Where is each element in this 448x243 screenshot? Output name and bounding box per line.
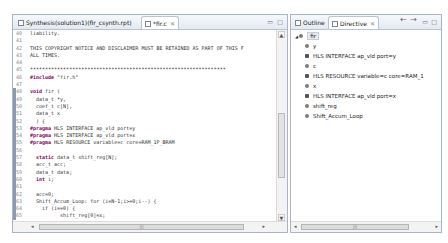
- tree-item-label: y: [313, 43, 316, 49]
- directive-tab-icon: [332, 21, 338, 27]
- report-file-icon: [18, 20, 24, 26]
- code-text: int i;: [30, 176, 54, 182]
- code-text: data_t *y,: [30, 96, 66, 102]
- directive-icon: [305, 54, 309, 58]
- scroll-left-icon[interactable]: ◂: [294, 223, 297, 229]
- code-line: 48void fir (: [13, 88, 277, 95]
- tree-item-label: Shift_Accum_Loop: [313, 113, 363, 119]
- function-icon: [299, 34, 303, 38]
- keyword: #pragma: [30, 139, 51, 145]
- code-line: 60 int i;: [13, 176, 277, 183]
- gutter-marker: [13, 125, 16, 132]
- directive-tree: ◢ firyHLS INTERFACE ap_vld port=ycHLS RE…: [293, 31, 424, 121]
- maximize-icon[interactable]: □: [431, 17, 437, 26]
- code-text: #pragma HLS INTERFACE ap_vld port=y: [30, 125, 135, 131]
- tree-item[interactable]: HLS RESOURCE variable=c core=RAM_1: [293, 71, 424, 81]
- scroll-thumb-horizontal[interactable]: |||: [301, 224, 409, 230]
- outline-icon: [295, 20, 301, 26]
- side-tab-bar: Outline Directive✕ ← → ▭ □: [291, 15, 441, 30]
- scroll-right-icon[interactable]: ▸: [262, 223, 265, 229]
- scroll-up-icon[interactable]: ▲: [278, 31, 285, 38]
- code-text: #pragma HLS INTERFACE ap_vld port=x: [30, 132, 135, 138]
- c-file-icon: [145, 21, 151, 27]
- tree-item-label: x: [313, 83, 316, 89]
- code-line: 55#pragma HLS RESOURCE variable=c core=R…: [13, 139, 277, 146]
- code-editor-pane: Synthesis(solution1)(fir_csynth.rpt) *fi…: [12, 14, 288, 233]
- gutter-marker: [13, 183, 16, 190]
- port-icon: [305, 44, 309, 48]
- code-line: 42THIS COPYRIGHT NOTICE AND DISCLAIMER M…: [13, 45, 277, 52]
- code-line: 65 shift_reg[0]=x;: [13, 212, 277, 219]
- scroll-down-icon[interactable]: ▼: [278, 214, 285, 221]
- gutter-marker: [13, 161, 16, 168]
- gutter-marker: [13, 88, 16, 95]
- gutter-marker: [13, 147, 16, 154]
- code-line: 59 data_t data;: [13, 169, 277, 176]
- code-line: 51 data_t x: [13, 110, 277, 117]
- code-text: if (i==0) {: [30, 205, 75, 211]
- scroll-thumb[interactable]: [278, 113, 285, 178]
- tab-outline[interactable]: Outline: [292, 16, 328, 29]
- tree-item[interactable]: shift_reg: [293, 101, 424, 111]
- code-line: 50 coef_t c[N],: [13, 103, 277, 110]
- keyword: #pragma: [30, 132, 51, 138]
- tab-fir-c[interactable]: *fir.c✕: [141, 16, 179, 29]
- code-line: 44: [13, 59, 277, 66]
- keyword: int: [36, 176, 45, 182]
- code-line: 53#pragma HLS INTERFACE ap_vld port=y: [13, 125, 277, 132]
- line-number: 46: [13, 74, 30, 81]
- code-line: 62 acc=0;: [13, 191, 277, 198]
- code-text: void fir (: [30, 88, 60, 94]
- directive-pane: Outline Directive✕ ← → ▭ □ ◢ firyHLS INT…: [290, 14, 442, 233]
- code-line: 57 static data_t shift_reg[N];: [13, 154, 277, 161]
- gutter-marker: [13, 118, 16, 125]
- tab-directive[interactable]: Directive✕: [328, 16, 379, 29]
- tree-item-label: c: [313, 63, 316, 69]
- code-text: ALL TIMES.: [30, 52, 60, 58]
- forward-arrow-icon[interactable]: →: [410, 15, 417, 24]
- tree-item[interactable]: HLS INTERFACE ap_vld port=y: [293, 51, 424, 61]
- keyword: static: [36, 154, 54, 160]
- horizontal-scrollbar[interactable]: ◂ ||| ▸: [291, 221, 441, 232]
- tree-item[interactable]: c: [293, 61, 424, 71]
- tree-item-label: HLS INTERFACE ap_vld port=y: [313, 53, 396, 59]
- line-number: 41: [13, 37, 30, 44]
- code-text: shift_reg[0]=x;: [30, 212, 105, 218]
- vertical-scrollbar[interactable]: ▲ ▼: [276, 30, 287, 222]
- code-text: data_t data;: [30, 169, 72, 175]
- port-icon: [305, 84, 309, 88]
- scroll-thumb-horizontal[interactable]: |||: [39, 224, 244, 230]
- tree-item[interactable]: HLS INTERFACE ap_vld port=x: [293, 91, 424, 101]
- gutter-marker: [13, 191, 16, 198]
- gutter-marker: [13, 132, 16, 139]
- back-arrow-icon[interactable]: ←: [400, 15, 407, 24]
- code-line: 46#include "fir.h": [13, 74, 277, 81]
- gutter-marker: [13, 212, 16, 219]
- tree-item[interactable]: Shift_Accum_Loop: [293, 111, 424, 121]
- scroll-right-icon[interactable]: ▸: [435, 223, 438, 229]
- directive-icon: [305, 94, 309, 98]
- code-text: THIS COPYRIGHT NOTICE AND DISCLAIMER MUS…: [30, 45, 244, 51]
- scroll-left-icon[interactable]: ◂: [31, 223, 34, 229]
- tab-synthesis-report[interactable]: Synthesis(solution1)(fir_csynth.rpt): [15, 16, 135, 29]
- close-icon[interactable]: ✕: [370, 20, 375, 27]
- tree-item[interactable]: ◢ fir: [293, 31, 424, 41]
- code-area[interactable]: 40liability.4142THIS COPYRIGHT NOTICE AN…: [13, 30, 277, 222]
- horizontal-scrollbar[interactable]: ◂ ||| ▸: [13, 221, 287, 232]
- code-line: 41: [13, 37, 277, 44]
- gutter-marker: [13, 96, 16, 103]
- line-number: 43: [13, 52, 30, 59]
- editor-tab-bar: Synthesis(solution1)(fir_csynth.rpt) *fi…: [13, 15, 287, 30]
- maximize-icon[interactable]: □: [277, 17, 283, 26]
- code-line: 52 ) {: [13, 118, 277, 125]
- tree-item[interactable]: x: [293, 81, 424, 91]
- close-icon[interactable]: ✕: [170, 20, 175, 27]
- tree-item[interactable]: y: [293, 41, 424, 51]
- loop-icon: [305, 114, 309, 118]
- minimize-icon[interactable]: ▭: [422, 17, 428, 26]
- gutter-marker: [13, 154, 16, 161]
- code-line: 43ALL TIMES.: [13, 52, 277, 59]
- minimize-icon[interactable]: ▭: [267, 17, 273, 26]
- tree-item-label: HLS INTERFACE ap_vld port=x: [313, 93, 396, 99]
- gutter-marker: [13, 110, 16, 117]
